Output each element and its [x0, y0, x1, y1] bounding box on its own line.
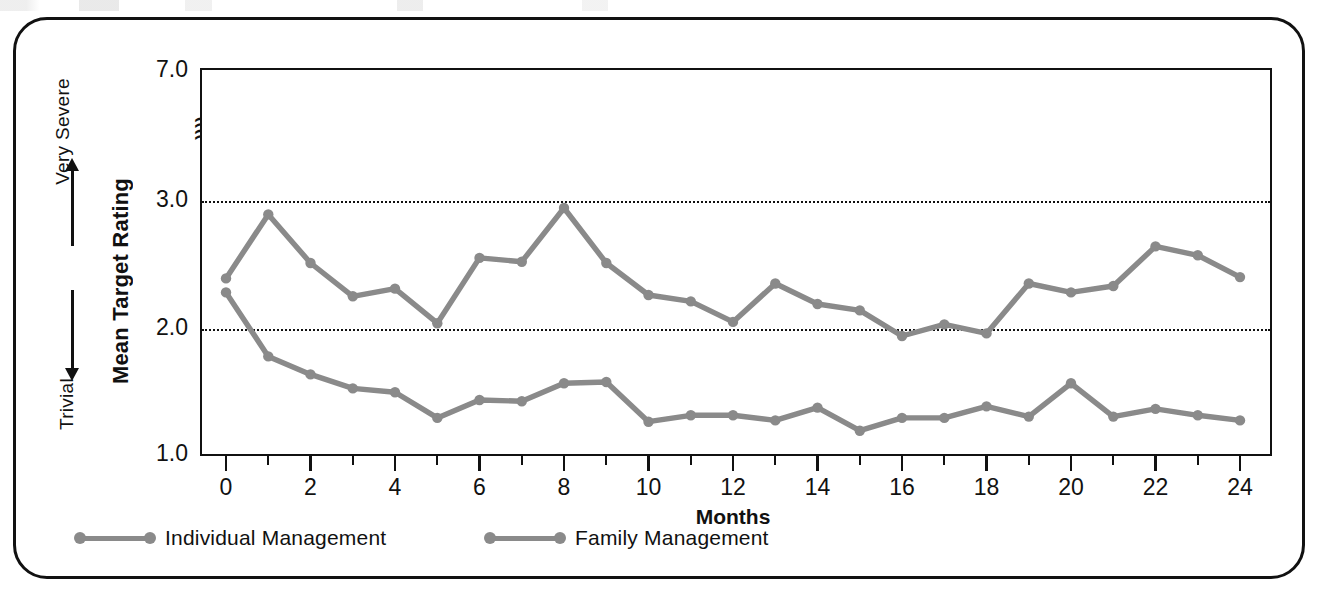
x-axis-tick: [267, 456, 269, 465]
x-tick-label: 6: [452, 474, 508, 501]
series-point: [1193, 250, 1203, 260]
series-point: [559, 203, 569, 213]
legend-label: Individual Management: [165, 526, 386, 550]
x-tick-label: 0: [198, 474, 254, 501]
y-tick-label: 3.0: [122, 186, 188, 213]
legend-item-family-management[interactable]: Family Management: [484, 526, 769, 550]
series-point: [1235, 272, 1245, 282]
series-point: [1066, 378, 1076, 388]
x-axis-tick: [225, 456, 227, 471]
series-point: [305, 369, 315, 379]
x-axis-tick: [774, 456, 776, 465]
series-point: [601, 258, 611, 268]
x-axis-tick: [985, 456, 987, 471]
x-axis-tick: [309, 456, 311, 471]
y-tick-label: 2.0: [122, 314, 188, 341]
x-axis-tick: [436, 456, 438, 465]
series-point: [855, 426, 865, 436]
series-point: [305, 258, 315, 268]
series-point: [643, 290, 653, 300]
series-point: [812, 299, 822, 309]
series-point: [432, 318, 442, 328]
severity-up-arrow-shaft: [71, 168, 74, 246]
x-tick-label: 12: [705, 474, 761, 501]
series-point: [1108, 411, 1118, 421]
series-point: [939, 413, 949, 423]
x-axis-tick: [732, 456, 734, 471]
x-tick-label: 8: [536, 474, 592, 501]
x-tick-label: 4: [367, 474, 423, 501]
series-point: [432, 413, 442, 423]
x-tick-label: 10: [621, 474, 677, 501]
x-axis-tick: [943, 456, 945, 465]
x-axis-tick: [1239, 456, 1241, 471]
series-point: [474, 395, 484, 405]
series-point: [686, 296, 696, 306]
figure-container: Very Severe Trivial Mean Target Rating 7…: [0, 0, 1322, 594]
x-axis-tick: [1112, 456, 1114, 465]
series-point: [643, 417, 653, 427]
series-point: [517, 396, 527, 406]
series-point: [221, 287, 231, 297]
series-point: [897, 331, 907, 341]
series-layer: [200, 68, 1272, 456]
series-point: [1235, 415, 1245, 425]
series-point: [474, 253, 484, 263]
y-tick-label: 7.0: [122, 56, 188, 83]
series-point: [559, 378, 569, 388]
series-point: [390, 387, 400, 397]
series-point: [1024, 278, 1034, 288]
severity-down-arrow-icon: [65, 368, 79, 381]
chart-legend: Individual Management Family Management: [60, 526, 1160, 560]
series-point: [263, 351, 273, 361]
severity-down-arrow-shaft: [71, 290, 74, 370]
series-point: [939, 319, 949, 329]
x-axis-tick: [563, 456, 565, 471]
series-point: [517, 257, 527, 267]
series-point: [728, 410, 738, 420]
series-point: [981, 328, 991, 338]
series-point: [1193, 410, 1203, 420]
series-point: [601, 377, 611, 387]
severity-up-arrow-icon: [65, 158, 79, 171]
series-point: [981, 401, 991, 411]
series-point: [221, 273, 231, 283]
series-point: [348, 383, 358, 393]
x-axis-tick: [647, 456, 649, 471]
x-tick-label: 22: [1128, 474, 1184, 501]
series-line: [226, 292, 1240, 430]
series-point: [1150, 241, 1160, 251]
series-point: [263, 209, 273, 219]
x-axis-tick: [478, 456, 480, 471]
series-point: [348, 291, 358, 301]
series-point: [390, 283, 400, 293]
x-tick-label: 16: [874, 474, 930, 501]
y-tick-label: 1.0: [122, 440, 188, 467]
x-tick-label: 18: [959, 474, 1015, 501]
legend-line-marker-icon: [484, 531, 566, 545]
x-axis-tick: [394, 456, 396, 471]
series-point: [1066, 287, 1076, 297]
x-axis-tick: [605, 456, 607, 465]
legend-label: Family Management: [575, 526, 769, 550]
legend-line-marker-icon: [74, 531, 156, 545]
series-point: [1108, 281, 1118, 291]
x-tick-label: 14: [790, 474, 846, 501]
x-axis-tick: [690, 456, 692, 465]
x-axis-tick: [859, 456, 861, 465]
legend-item-individual-management[interactable]: Individual Management: [74, 526, 386, 550]
series-point: [770, 278, 780, 288]
x-axis-tick: [352, 456, 354, 465]
severity-low-label: Trivial: [56, 378, 78, 430]
x-axis-tick: [1028, 456, 1030, 465]
x-tick-label: 24: [1212, 474, 1268, 501]
series-point: [1150, 404, 1160, 414]
series-point: [728, 317, 738, 327]
series-point: [897, 413, 907, 423]
series-point: [855, 305, 865, 315]
x-axis-tick: [1070, 456, 1072, 471]
x-axis-tick: [521, 456, 523, 465]
series-point: [812, 402, 822, 412]
x-axis-tick: [816, 456, 818, 471]
series-point: [770, 415, 780, 425]
